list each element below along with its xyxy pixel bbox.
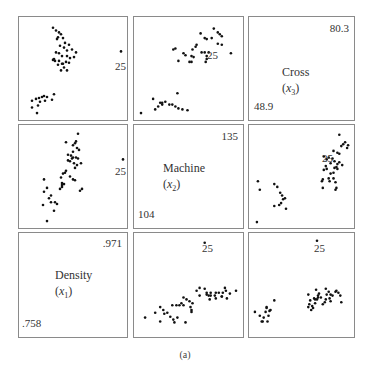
data-point	[43, 190, 46, 193]
data-point	[205, 38, 208, 41]
figure-caption: (a)	[0, 349, 370, 360]
data-point	[39, 101, 42, 104]
variable-name-cross: Cross (x3)	[282, 64, 309, 99]
data-point	[48, 197, 51, 200]
data-point	[331, 294, 334, 297]
data-point	[154, 108, 157, 111]
data-point	[175, 304, 178, 307]
data-point	[230, 52, 233, 55]
data-point	[66, 69, 69, 72]
data-point	[74, 167, 77, 170]
data-point	[340, 301, 343, 304]
data-point	[166, 312, 169, 315]
data-point	[181, 108, 184, 111]
data-point	[120, 50, 123, 53]
data-point	[318, 292, 321, 295]
data-point	[54, 201, 57, 204]
data-point	[280, 202, 283, 205]
data-point	[50, 201, 53, 204]
data-point	[60, 33, 63, 36]
data-point	[37, 104, 40, 107]
variable-symbol: (x2)	[163, 176, 205, 195]
data-point	[64, 42, 67, 45]
data-point	[144, 316, 147, 319]
data-point	[77, 133, 80, 136]
variable-title: Density	[55, 267, 92, 283]
data-point	[308, 303, 311, 306]
data-point	[35, 98, 38, 101]
data-point	[61, 55, 64, 58]
data-point	[66, 49, 69, 52]
data-point	[75, 140, 78, 143]
data-point	[221, 35, 224, 38]
axis-min-label: .758	[22, 318, 41, 329]
data-point	[72, 151, 75, 154]
data-point	[69, 160, 72, 163]
data-point	[122, 158, 125, 161]
data-point	[162, 309, 165, 312]
observation-label-25: 25	[322, 153, 333, 164]
data-point	[317, 296, 320, 299]
data-point	[344, 141, 347, 144]
data-point	[210, 37, 213, 40]
data-point	[335, 187, 338, 190]
data-point	[221, 44, 224, 47]
data-point	[192, 56, 195, 59]
data-point	[209, 294, 212, 297]
data-point	[172, 48, 175, 51]
data-point	[178, 304, 181, 307]
data-point	[69, 175, 72, 178]
data-point	[163, 313, 166, 316]
scatter-points	[19, 125, 127, 228]
data-point	[325, 298, 328, 301]
diagonal-panel-machine: 135 Machine (x2) 104	[133, 124, 244, 229]
observation-label-25: 25	[115, 61, 126, 72]
data-point	[46, 187, 49, 190]
data-point	[307, 306, 310, 309]
data-point	[273, 299, 276, 302]
data-point	[78, 149, 81, 152]
data-point	[266, 320, 269, 323]
data-point	[62, 63, 65, 66]
variable-symbol: (x3)	[282, 80, 309, 99]
data-point	[219, 33, 222, 36]
data-point	[80, 162, 83, 165]
axis-min-label: 48.9	[254, 101, 273, 112]
data-point	[325, 165, 328, 168]
data-point	[43, 178, 46, 181]
data-point	[184, 54, 187, 57]
data-point	[337, 291, 340, 294]
data-point	[58, 52, 61, 55]
panel-x2-vs-x1: 25	[18, 124, 128, 229]
data-point	[315, 289, 318, 292]
data-point	[60, 69, 63, 72]
data-point	[198, 294, 201, 297]
data-point	[161, 103, 164, 106]
data-point	[222, 291, 225, 294]
data-point	[164, 101, 167, 104]
data-point	[284, 197, 287, 200]
data-point	[335, 290, 338, 293]
data-point	[324, 301, 327, 304]
data-point	[229, 292, 232, 295]
data-point	[53, 209, 56, 212]
data-point	[184, 321, 187, 324]
data-point	[81, 188, 84, 191]
data-point	[265, 307, 268, 310]
axis-min-label: 104	[138, 209, 155, 220]
data-point	[71, 157, 74, 160]
data-point	[208, 298, 211, 301]
data-point	[195, 290, 198, 293]
variable-name-machine: Machine (x2)	[163, 160, 205, 195]
data-point	[328, 297, 331, 300]
data-point	[176, 92, 179, 95]
observation-label-25: 25	[115, 166, 126, 177]
data-point	[177, 107, 180, 110]
data-point	[346, 147, 349, 150]
scatter-points	[249, 125, 354, 228]
data-point	[73, 56, 76, 59]
data-point	[73, 162, 76, 165]
data-point	[340, 145, 343, 148]
panel-x2-vs-x3: 25	[248, 124, 355, 229]
data-point	[264, 311, 267, 314]
